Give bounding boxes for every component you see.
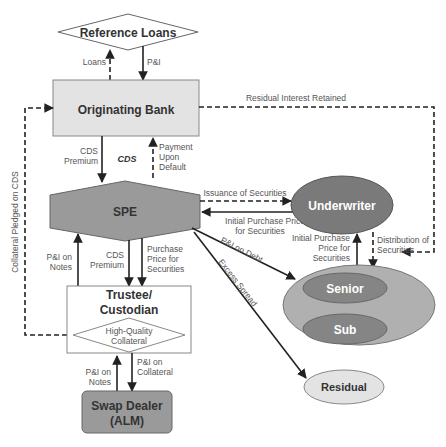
purchase-label-2: Price for [147, 254, 179, 264]
pi-notes-label-1: P&I on [46, 252, 72, 262]
swap-dealer-node: Swap Dealer (ALM) [82, 391, 172, 433]
distribution-label-1: Distribution of [377, 235, 430, 245]
collateral-label-2: Collateral [111, 336, 147, 346]
residual-interest-label: Residual Interest Retained [246, 93, 346, 103]
uw-initial-label-1: Initial Purchase [292, 233, 350, 243]
swap-pi-notes-label-2: Notes [89, 377, 111, 387]
trustee-label-1: Trustee/ [106, 288, 153, 302]
uw-initial-label-2: Price for [318, 243, 350, 253]
collateral-pledged-label: Collateral Pledged on CDS [10, 171, 20, 273]
loans-label: Loans [83, 57, 106, 67]
swap-pi-coll-label-2: Collateral [137, 367, 173, 377]
senior-label: Senior [326, 282, 364, 296]
initial-purchase-label-1: Initial Purchase Price [225, 216, 305, 226]
payment-label-3: Default [159, 162, 187, 172]
payment-label-1: Payment [159, 142, 193, 152]
originating-bank-label: Originating Bank [78, 103, 175, 117]
pi-label: P&I [147, 57, 161, 67]
sub-label: Sub [334, 323, 357, 337]
cds-premium-label-2: Premium [64, 156, 98, 166]
swap-dealer-label-1: Swap Dealer [91, 399, 163, 413]
swap-pi-coll-label-1: P&I on [137, 357, 163, 367]
collateral-label-1: High-Quality [106, 326, 154, 336]
payment-label-2: Upon [159, 152, 180, 162]
underwriter-label: Underwriter [308, 199, 376, 213]
swap-pi-notes-label-1: P&I on [85, 367, 111, 377]
excess-spread-label: Excess Spread [216, 257, 259, 308]
underwriter-node: Underwriter [291, 176, 393, 234]
originating-bank-node: Originating Bank [53, 80, 199, 136]
spe-label: SPE [113, 205, 137, 219]
trustee-label-2: Custodian [100, 303, 159, 317]
reference-loans-node: Reference Loans [58, 14, 198, 50]
trustee-cds-label-1: CDS [106, 250, 124, 260]
distribution-label-2: Securities [377, 245, 414, 255]
spe-node: SPE [50, 181, 200, 241]
residual-node: Residual [304, 370, 384, 404]
purchase-label-3: Securities [147, 264, 184, 274]
initial-purchase-label-2: for Securities [235, 226, 285, 236]
uw-initial-label-3: Securities [313, 253, 350, 263]
trustee-custodian-node: Trustee/ Custodian High-Quality Collater… [67, 286, 191, 353]
issuance-label: Issuance of Securities [203, 188, 286, 198]
cds-premium-label-1: CDS [80, 146, 98, 156]
swap-dealer-label-2: (ALM) [110, 414, 144, 428]
cds-center-label: CDS [117, 154, 136, 164]
purchase-label-1: Purchase [147, 244, 183, 254]
tranches-node: Senior Sub [283, 265, 435, 345]
reference-loans-label: Reference Loans [80, 26, 177, 40]
pi-notes-label-2: Notes [50, 262, 72, 272]
trustee-cds-label-2: Premium [90, 260, 124, 270]
residual-label: Residual [321, 381, 367, 393]
cds-structure-diagram: Reference Loans Loans P&I Originating Ba… [0, 0, 446, 447]
